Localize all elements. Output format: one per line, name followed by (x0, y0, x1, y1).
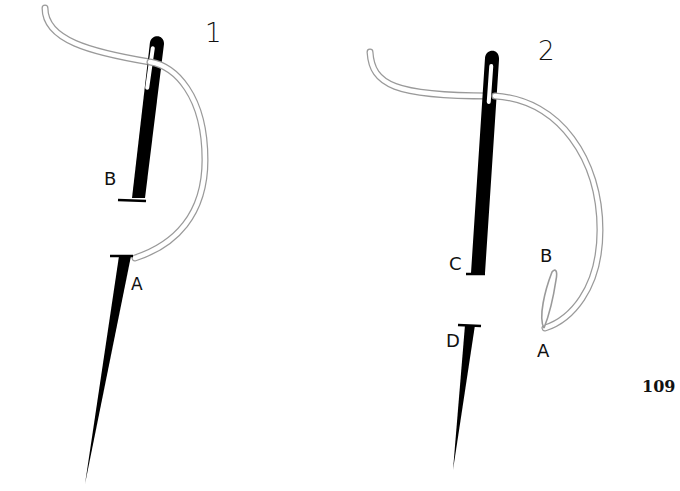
page-number: 109 (642, 377, 675, 396)
thread-icon (45, 8, 150, 62)
label-b: B (104, 168, 116, 189)
needle-eye-icon (466, 51, 499, 274)
thread-loop-icon (495, 96, 600, 328)
label-a: A (131, 274, 143, 294)
figure-1 (45, 8, 205, 484)
figure-2 (370, 51, 600, 470)
thread-icon (370, 52, 490, 96)
stitch-illustration (0, 0, 680, 491)
label-a: A (537, 340, 549, 361)
figure-1-number: 1 (205, 18, 222, 48)
needle-point-icon (85, 256, 133, 484)
label-d: D (446, 330, 460, 351)
label-b: B (540, 245, 552, 266)
label-c: C (449, 253, 462, 274)
figure-2-number: 2 (538, 36, 555, 66)
